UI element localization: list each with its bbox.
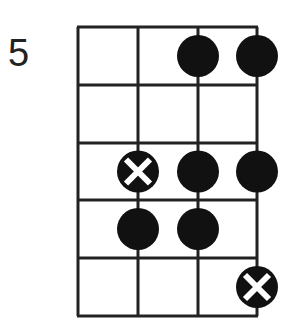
finger-dot [177, 208, 219, 250]
finger-dot [117, 208, 159, 250]
finger-dot [177, 151, 219, 193]
finger-dot [236, 151, 278, 193]
fretboard-diagram [0, 0, 298, 320]
finger-dot [236, 35, 278, 77]
finger-dot [177, 35, 219, 77]
